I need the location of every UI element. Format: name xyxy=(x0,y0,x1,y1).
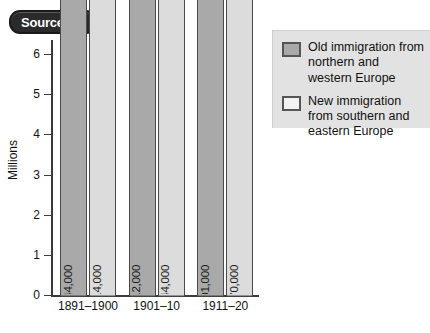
y-axis-tick xyxy=(44,295,52,296)
plot-area: 1,644,0001,914,0001,912,0006,244,0002,00… xyxy=(52,40,258,295)
y-axis-tick xyxy=(44,54,52,55)
x-axis-label-0: 1891–1900 xyxy=(50,300,126,312)
legend-label-new: New immigration from southern and easter… xyxy=(308,94,424,140)
y-axis-tick xyxy=(44,255,52,256)
bar-old-2: 2,001,000 xyxy=(197,0,224,296)
y-axis-tick-label: 1 xyxy=(22,249,40,261)
bar-new-1: 6,244,000 xyxy=(158,0,185,296)
x-axis-label-2: 1911–20 xyxy=(187,300,263,312)
y-axis-tick-label: 4 xyxy=(22,128,40,140)
y-axis-tick-label: 6 xyxy=(22,48,40,60)
bar-value-label: 1,914,000 xyxy=(91,264,103,296)
legend-item-new: New immigration from southern and easter… xyxy=(282,94,424,140)
bar-new-0: 1,914,000 xyxy=(89,0,116,296)
bar-chart: Millions 0123456 1,644,0001,914,0001,912… xyxy=(0,26,265,326)
bar-value-label: 2,370,000 xyxy=(228,264,240,296)
bar-value-label: 6,244,000 xyxy=(160,264,172,296)
y-axis-tick-label: 5 xyxy=(22,88,40,100)
legend-swatch-new xyxy=(282,96,301,111)
legend-item-old: Old immigration from northern and wester… xyxy=(282,40,424,86)
y-axis-tick-label: 2 xyxy=(22,209,40,221)
y-axis-tick-label: 0 xyxy=(22,289,40,301)
x-axis-label-1: 1901–10 xyxy=(119,300,195,312)
y-axis-tick-label: 3 xyxy=(22,169,40,181)
bar-value-label: 2,001,000 xyxy=(199,264,211,296)
bar-value-label: 1,644,000 xyxy=(62,264,74,296)
chart-legend: Old immigration from northern and wester… xyxy=(272,30,430,128)
y-axis-tick xyxy=(44,215,52,216)
y-axis-tick xyxy=(44,134,52,135)
bar-value-label: 1,912,000 xyxy=(131,264,143,296)
y-axis-title: Millions xyxy=(7,125,19,195)
bar-old-1: 1,912,000 xyxy=(129,0,156,296)
bar-new-2: 2,370,000 xyxy=(226,0,253,296)
legend-label-old: Old immigration from northern and wester… xyxy=(308,40,424,86)
y-axis-tick xyxy=(44,175,52,176)
bar-old-0: 1,644,000 xyxy=(60,0,87,296)
y-axis-tick xyxy=(44,94,52,95)
legend-swatch-old xyxy=(282,42,301,57)
